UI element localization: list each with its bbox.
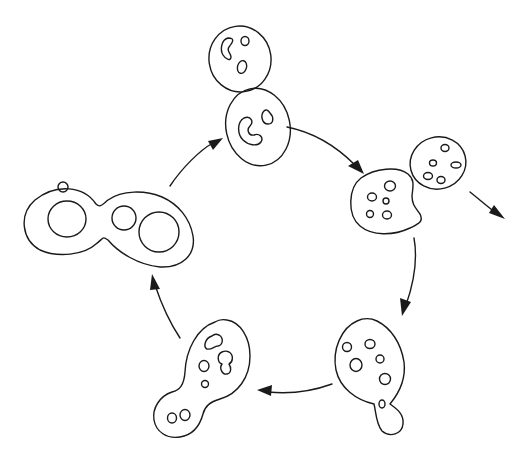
cycle-diagram	[0, 0, 524, 460]
arrow-right-to-bottom-right	[400, 238, 416, 316]
stage-left-cell	[24, 182, 193, 267]
arrow-exit	[470, 192, 505, 219]
arrow-bottom-right-to-bottom-left	[257, 384, 332, 396]
stage-right-cells	[351, 131, 472, 234]
stage-bottom-left-cells	[154, 320, 250, 438]
arrow-top-to-right	[287, 127, 364, 174]
stage-top-cells	[205, 22, 298, 172]
arrow-bottom-left-to-left	[150, 274, 180, 338]
arrow-left-to-top	[170, 138, 223, 186]
stage-bottom-right-cells	[335, 319, 404, 435]
